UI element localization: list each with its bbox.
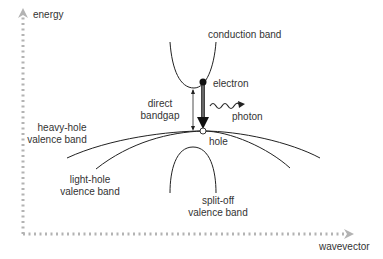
y-axis-label: energy bbox=[33, 9, 64, 20]
electron-dot-icon bbox=[200, 79, 207, 86]
photon-label: photon bbox=[232, 111, 263, 122]
hole-circle-icon bbox=[200, 128, 206, 134]
y-axis bbox=[18, 8, 28, 234]
x-axis-label: wavevector bbox=[318, 241, 370, 252]
heavy-hole-label-line1: heavy-hole bbox=[38, 122, 87, 133]
photon-wave-icon bbox=[210, 101, 245, 109]
x-axis-arrow-icon bbox=[344, 229, 354, 239]
light-hole-band-curve bbox=[96, 131, 290, 169]
transition-arrow bbox=[197, 84, 209, 129]
band-structure-diagram: energy wavevector conduction band direct… bbox=[0, 0, 383, 259]
direct-bandgap-label-line2: bandgap bbox=[141, 110, 180, 121]
heavy-hole-band-curve bbox=[67, 131, 320, 158]
hole-label: hole bbox=[209, 136, 228, 147]
split-off-label-line1: split-off bbox=[202, 195, 234, 206]
conduction-band-curve bbox=[170, 42, 216, 88]
x-axis bbox=[23, 229, 354, 239]
split-off-label-line2: valence band bbox=[188, 207, 248, 218]
y-axis-arrow-icon bbox=[18, 8, 28, 18]
conduction-band-label: conduction band bbox=[208, 29, 281, 40]
light-hole-label-line2: valence band bbox=[60, 186, 120, 197]
electron-label: electron bbox=[213, 78, 249, 89]
light-hole-label-line1: light-hole bbox=[70, 174, 111, 185]
heavy-hole-label-line2: valence band bbox=[27, 134, 87, 145]
bandgap-arrow bbox=[191, 89, 195, 131]
direct-bandgap-label-line1: direct bbox=[148, 98, 173, 109]
split-off-band-curve bbox=[170, 147, 216, 193]
